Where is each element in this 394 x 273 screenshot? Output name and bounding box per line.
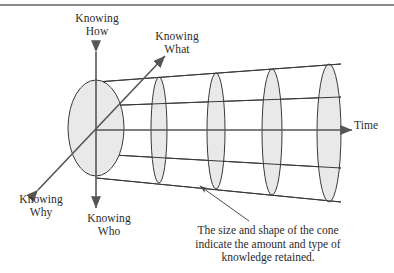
cross-section-4 (317, 64, 341, 202)
axis-label-knowing-who: Knowing Who (72, 212, 146, 237)
cross-section-2 (207, 73, 225, 189)
cross-section-3 (262, 69, 282, 195)
caption-line-2: indicate the amount and type of (152, 238, 384, 252)
axis-label-time: Time (354, 119, 394, 132)
axis-label-knowing-why: Knowing Why (4, 193, 78, 218)
figure-caption: The size and shape of the cone indicate … (152, 224, 384, 265)
caption-leader-line (200, 186, 249, 221)
cone-cross-sections (151, 64, 341, 202)
caption-line-1: The size and shape of the cone (152, 224, 384, 238)
axis-label-knowing-how: Knowing How (60, 12, 134, 37)
axis-label-knowing-what: Knowing What (140, 30, 214, 55)
knowledge-cone-figure: Knowing How Knowing What Knowing Why Kno… (0, 0, 394, 273)
caption-line-3: knowledge retained. (152, 251, 384, 265)
